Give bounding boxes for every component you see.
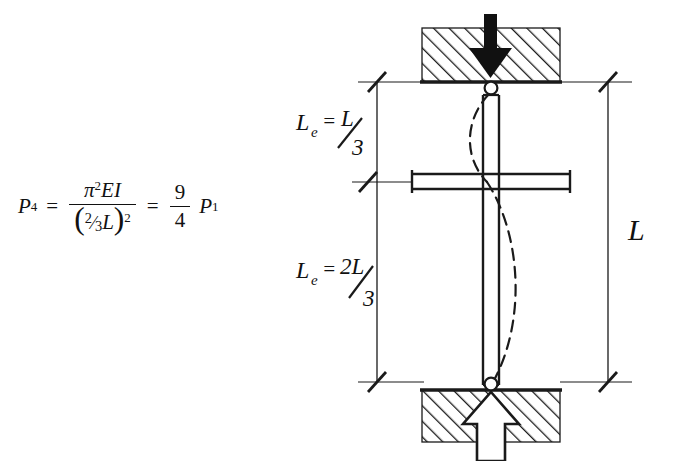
buckled-deflected-shape — [470, 94, 516, 384]
column-member — [483, 95, 499, 385]
upper-label-base: L — [295, 109, 309, 135]
upper-label-numerator: L — [340, 106, 354, 131]
lower-label-base: L — [295, 257, 309, 283]
label-upper-effective-length: L e = L 3 — [295, 106, 364, 160]
pin-connection-top — [485, 82, 498, 95]
lower-label-numerator: 2L — [340, 254, 364, 279]
figure-canvas: P4 = π2EI (2⁄3L)2 = 9 4 P1 — [0, 0, 678, 461]
pin-connection-bottom — [485, 378, 498, 391]
upper-label-subscript: e — [311, 124, 318, 140]
label-lower-effective-length: L e = 2L 3 — [295, 254, 375, 311]
dimension-line-right — [560, 72, 632, 392]
lower-label-equals: = — [322, 257, 336, 281]
upper-label-equals: = — [322, 109, 336, 133]
upper-label-denominator: 3 — [351, 135, 364, 160]
lower-label-denominator: 3 — [362, 286, 375, 311]
column-buckling-diagram: L e = L 3 L e = 2L 3 L — [0, 0, 678, 461]
intermediate-lateral-support — [412, 170, 570, 193]
label-total-length: L — [627, 213, 645, 246]
lower-label-subscript: e — [311, 272, 318, 288]
dimension-line-left — [352, 72, 424, 392]
